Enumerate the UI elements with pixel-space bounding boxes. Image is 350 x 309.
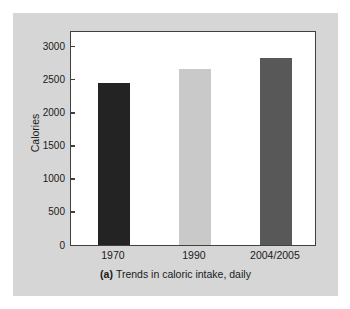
bar-1970	[98, 83, 131, 245]
figure-screenshot: Calories 050010001500200025003000 197019…	[0, 0, 350, 309]
y-tick-label: 500	[48, 206, 65, 217]
y-tick-label: 0	[59, 239, 65, 250]
x-tick-label-2004-2005: 2004/2005	[250, 249, 300, 261]
bar-1990	[179, 69, 212, 245]
bar-2004-2005	[260, 58, 293, 245]
y-tick-label: 1500	[43, 140, 65, 151]
caption-tag: (a)	[100, 268, 113, 280]
caption-text: Trends in caloric intake, daily	[116, 268, 251, 280]
y-tick-label: 2500	[43, 73, 65, 84]
x-tick-label-1990: 1990	[182, 249, 205, 261]
figure-panel: Calories 050010001500200025003000 197019…	[13, 13, 338, 296]
y-tick-mark	[70, 145, 75, 147]
y-axis-title: Calories	[29, 114, 41, 153]
y-tick-mark	[70, 178, 75, 180]
y-tick-label: 2000	[43, 107, 65, 118]
y-tick-mark	[70, 46, 75, 48]
y-tick-mark	[70, 245, 75, 247]
y-tick-mark	[70, 211, 75, 213]
x-tick-label-1970: 1970	[101, 249, 124, 261]
y-tick-mark	[70, 79, 75, 81]
figure-caption: (a) Trends in caloric intake, daily	[13, 268, 338, 280]
plot-frame	[70, 31, 316, 246]
y-tick-label: 1000	[43, 173, 65, 184]
y-tick-mark	[70, 112, 75, 114]
y-tick-label: 3000	[43, 40, 65, 51]
plot-area	[71, 32, 315, 245]
